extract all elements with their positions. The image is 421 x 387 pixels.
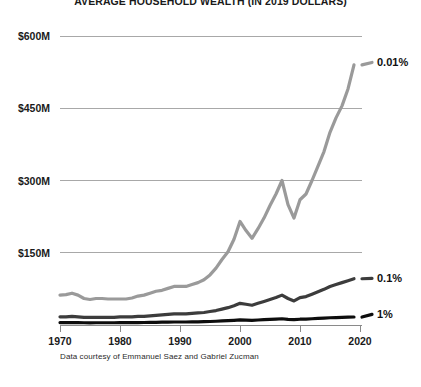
y-tick-label: $450M bbox=[18, 102, 50, 114]
data-series-group bbox=[60, 65, 354, 323]
y-tick-label: $600M bbox=[18, 30, 50, 42]
chart-container: AVERAGE HOUSEHOLD WEALTH (IN 2019 DOLLAR… bbox=[0, 0, 421, 387]
series-labels-group: 0.01%0.1%1% bbox=[362, 56, 408, 320]
gridlines-group bbox=[60, 36, 362, 253]
data-credit: Data courtesy of Emmanuel Saez and Gabri… bbox=[60, 352, 259, 361]
x-tick-label: 1980 bbox=[108, 335, 132, 347]
x-tick-label: 1970 bbox=[48, 335, 72, 347]
x-tick-label: 2010 bbox=[288, 335, 312, 347]
x-axis-group bbox=[60, 325, 362, 332]
x-tick-label: 1990 bbox=[168, 335, 192, 347]
y-axis-tick-labels: $150M$300M$450M$600M bbox=[18, 30, 50, 259]
x-axis-tick-labels: 197019801990200020102020 bbox=[48, 335, 372, 347]
y-tick-label: $150M bbox=[18, 247, 50, 259]
chart-plot-area: $150M$300M$450M$600M 1970198019902000201… bbox=[0, 0, 421, 387]
series-label-0_1_: 0.1% bbox=[377, 272, 402, 284]
series-leader-0_01_ bbox=[362, 62, 372, 64]
y-tick-label: $300M bbox=[18, 175, 50, 187]
x-tick-label: 2020 bbox=[348, 335, 372, 347]
series-label-1_: 1% bbox=[377, 308, 393, 320]
series-label-0_01_: 0.01% bbox=[377, 56, 408, 68]
series-line-0_01_ bbox=[60, 65, 354, 300]
series-leader-1_ bbox=[362, 314, 372, 317]
x-tick-label: 2000 bbox=[228, 335, 252, 347]
